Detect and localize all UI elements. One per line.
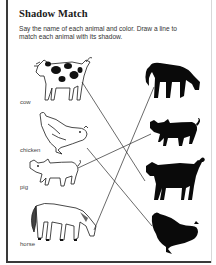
pig-drawing-icon[interactable] [30, 159, 81, 186]
animal-label-chicken: chicken [20, 147, 40, 153]
horse-drawing-icon[interactable] [32, 203, 97, 241]
horse-shadow-icon[interactable] [146, 63, 201, 98]
animal-label-horse: horse [20, 241, 35, 247]
chicken-drawing-icon[interactable] [40, 112, 88, 154]
worksheet-artwork [0, 0, 216, 265]
match-line-pig[interactable] [78, 134, 151, 168]
animal-label-cow: cow [20, 99, 31, 105]
cow-shadow-icon[interactable] [146, 158, 205, 201]
cow-drawing-icon[interactable] [34, 58, 92, 101]
match-lines [78, 82, 154, 230]
match-line-horse[interactable] [94, 87, 154, 230]
match-line-chicken[interactable] [87, 148, 152, 226]
worksheet-page: Shadow Match Say the name of each animal… [0, 0, 216, 265]
animal-label-pig: pig [20, 184, 28, 190]
pig-shadow-icon[interactable] [150, 118, 200, 146]
chicken-shadow-icon[interactable] [152, 212, 199, 254]
